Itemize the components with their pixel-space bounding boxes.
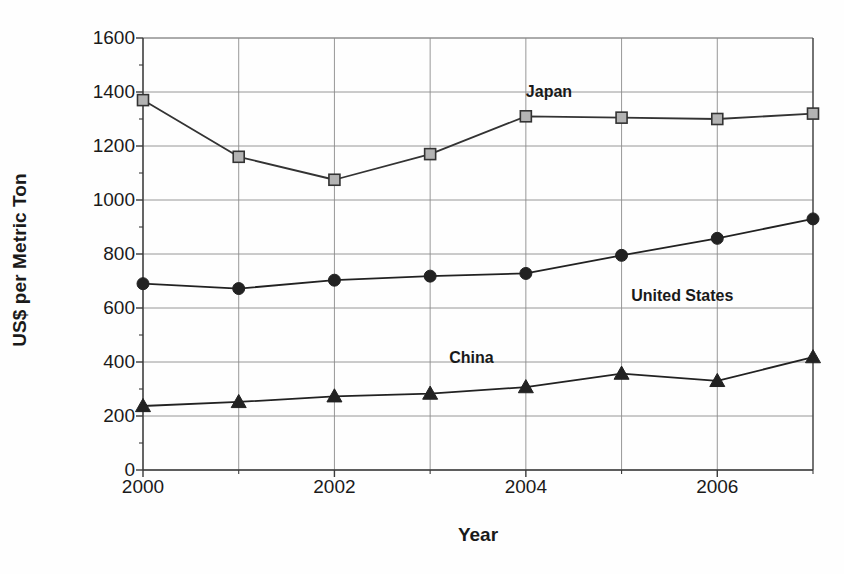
data-point-marker-triangle [614,366,629,379]
data-point-marker-circle [616,249,628,261]
x-axis-tick-label: 2002 [313,476,355,498]
data-point-marker-circle [137,278,149,290]
x-axis-tick-label: 2004 [505,476,547,498]
data-point-marker-square [712,114,723,125]
data-point-marker-square [329,174,340,185]
data-point-marker-square [233,151,244,162]
data-point-marker-circle [807,213,819,225]
data-point-marker-circle [424,270,436,282]
data-point-marker-square [808,108,819,119]
series-label-united-states: United States [631,287,733,305]
data-point-marker-circle [520,267,532,279]
data-point-marker-square [138,95,149,106]
x-axis-tick-label: 2000 [122,476,164,498]
series-label-china: China [449,349,493,367]
data-point-marker-circle [233,283,245,295]
line-chart: US$ per Metric Ton 020040060080010001200… [0,0,844,574]
series-label-japan: Japan [526,83,572,101]
data-point-marker-square [616,112,627,123]
data-point-marker-triangle [806,350,821,363]
x-axis-title: Year [143,524,813,546]
data-point-marker-circle [328,274,340,286]
x-axis-tick-label: 2006 [696,476,738,498]
data-point-marker-square [425,149,436,160]
series-line-japan [143,100,813,180]
data-point-marker-circle [711,232,723,244]
data-point-marker-square [520,111,531,122]
